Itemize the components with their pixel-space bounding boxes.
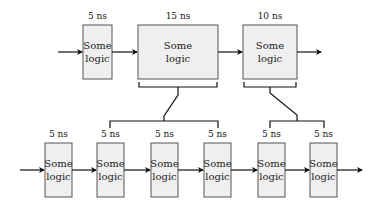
logic-box <box>83 25 112 79</box>
logic-text-line2: logic <box>166 53 191 64</box>
pipeline-diagram: 5 ns Some logic 15 ns Some logic 10 ns S… <box>0 0 380 207</box>
logic-text-line1: Some <box>83 40 111 51</box>
logic-box <box>45 143 72 197</box>
top-stage-2: 15 ns Some logic <box>138 11 218 79</box>
bottom-stage-5: 5 ns Some logic <box>257 129 285 197</box>
delay-label: 10 ns <box>258 11 283 21</box>
delay-label: 15 ns <box>166 11 191 21</box>
logic-text-line1: Some <box>96 158 124 169</box>
logic-text-line1: Some <box>309 158 337 169</box>
delay-label: 5 ns <box>262 129 281 139</box>
bottom-stage-2: 5 ns Some logic <box>96 129 124 197</box>
delay-label: 5 ns <box>155 129 174 139</box>
logic-text-line1: Some <box>164 40 192 51</box>
logic-text-line2: logic <box>98 171 123 182</box>
top-row: 5 ns Some logic 15 ns Some logic 10 ns S… <box>58 11 321 79</box>
bottom-stage-1: 5 ns Some logic <box>44 129 72 197</box>
delay-label: 5 ns <box>49 129 68 139</box>
delay-label: 5 ns <box>208 129 227 139</box>
connector-line <box>164 87 178 121</box>
logic-text-line1: Some <box>257 158 285 169</box>
delay-label: 5 ns <box>88 11 107 21</box>
bottom-stage-4: 5 ns Some logic <box>203 129 231 197</box>
logic-text-line2: logic <box>205 171 230 182</box>
logic-text-line1: Some <box>203 158 231 169</box>
bracket <box>244 82 296 87</box>
top-stage-1: 5 ns Some logic <box>83 11 112 79</box>
bottom-row: 5 ns Some logic 5 ns Some logic 5 ns Som… <box>20 129 362 197</box>
bottom-stage-6: 5 ns Some logic <box>309 129 337 197</box>
bracket <box>139 82 217 87</box>
logic-text-line1: Some <box>256 40 284 51</box>
connector-line <box>270 87 297 121</box>
logic-box <box>204 143 231 197</box>
top-stage-3: 10 ns Some logic <box>243 11 297 79</box>
logic-box <box>97 143 124 197</box>
logic-text-line2: logic <box>152 171 177 182</box>
logic-text-line2: logic <box>258 53 283 64</box>
logic-text-line2: logic <box>85 53 110 64</box>
bottom-stage-3: 5 ns Some logic <box>150 129 178 197</box>
delay-label: 5 ns <box>101 129 120 139</box>
logic-box <box>258 143 285 197</box>
logic-text-line1: Some <box>150 158 178 169</box>
logic-box <box>138 25 218 79</box>
logic-text-line2: logic <box>311 171 336 182</box>
logic-box <box>151 143 178 197</box>
logic-text-line2: logic <box>46 171 71 182</box>
logic-box <box>310 143 337 197</box>
bracket <box>270 121 324 128</box>
delay-label: 5 ns <box>314 129 333 139</box>
split-connectors <box>110 82 324 128</box>
logic-text-line1: Some <box>44 158 72 169</box>
logic-box <box>243 25 297 79</box>
bracket <box>110 121 218 128</box>
logic-text-line2: logic <box>259 171 284 182</box>
